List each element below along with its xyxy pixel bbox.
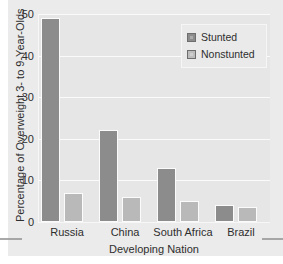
bar-russia-stunted [41,18,60,222]
x-axis-label: Developing Nation [38,243,270,255]
x-axis-line [38,222,270,223]
bar-brazil-nonstunted [238,207,257,222]
legend-label-nonstunted: Nonstunted [201,49,255,60]
bar-russia-nonstunted [64,193,83,222]
y-axis-line [38,14,39,223]
scan-artifact-right [262,238,283,240]
legend-swatch-icon-stunted [187,33,196,42]
legend-item-stunted: Stunted [187,29,261,46]
legend: Stunted Nonstunted [181,24,267,68]
bar-china-stunted [99,130,118,222]
chart-screenshot: 01020304050 RussiaChinaSouth AfricaBrazi… [0,0,283,264]
x-tick-label: Brazil [202,226,280,238]
gridline [39,180,270,181]
gridline [39,139,270,140]
legend-swatch-icon-nonstunted [187,50,196,59]
legend-item-nonstunted: Nonstunted [187,46,261,63]
y-axis-label: Percentage of Overweight 3- to 9-Year-Ol… [14,10,26,222]
gridline [39,14,270,15]
legend-label-stunted: Stunted [201,32,237,43]
gridline [39,97,270,98]
bar-china-nonstunted [122,197,141,222]
bar-south-africa-stunted [157,168,176,222]
bar-brazil-stunted [215,205,234,222]
bar-south-africa-nonstunted [180,201,199,222]
